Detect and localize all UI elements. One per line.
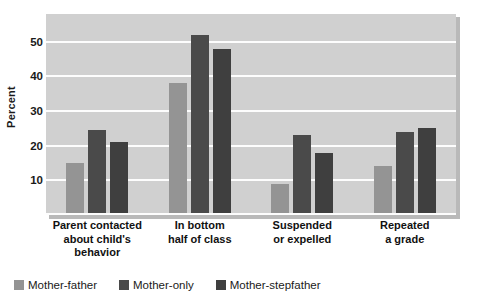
legend-label: Mother-only xyxy=(133,279,194,291)
bar xyxy=(315,153,333,215)
gridline xyxy=(46,41,456,43)
x-axis-baseline xyxy=(46,213,456,215)
legend-label: Mother-stepfather xyxy=(230,279,321,291)
bar xyxy=(293,135,311,215)
x-axis-label-line: Repeated xyxy=(354,219,457,233)
bar xyxy=(110,142,128,215)
x-axis-label-line: or expelled xyxy=(251,233,354,247)
legend-swatch-icon xyxy=(119,280,129,290)
x-axis-category-labels: Parent contactedabout child'sbehaviorIn … xyxy=(46,219,456,271)
x-axis-label-line: about child's xyxy=(46,233,149,247)
x-axis-category-label: Suspendedor expelled xyxy=(251,219,354,246)
bar xyxy=(418,128,436,215)
y-axis-tick-label: 30 xyxy=(30,105,43,117)
bar xyxy=(271,184,289,215)
bar xyxy=(88,130,106,215)
legend-swatch-icon xyxy=(14,280,24,290)
legend-swatch-icon xyxy=(216,280,226,290)
legend-item: Mother-only xyxy=(119,279,194,291)
gridline xyxy=(46,75,456,77)
x-axis-label-line: In bottom xyxy=(149,219,252,233)
y-axis-tick-label: 40 xyxy=(30,70,43,82)
x-axis-label-line: Parent contacted xyxy=(46,219,149,233)
bar xyxy=(66,163,84,215)
gridline xyxy=(46,110,456,112)
bar xyxy=(213,49,231,215)
bar-chart-figure: Percent 1020304050 Parent contactedabout… xyxy=(0,0,477,306)
legend-item: Mother-stepfather xyxy=(216,279,321,291)
bar xyxy=(396,132,414,215)
x-axis-label-line: Suspended xyxy=(251,219,354,233)
x-axis-label-line: behavior xyxy=(46,246,149,260)
gridline xyxy=(46,145,456,147)
gridline xyxy=(46,179,456,181)
bar xyxy=(169,83,187,215)
y-axis-tick-label: 10 xyxy=(30,174,43,186)
legend-item: Mother-father xyxy=(14,279,97,291)
chart-legend: Mother-fatherMother-onlyMother-stepfathe… xyxy=(14,279,343,291)
y-axis-tick-label: 50 xyxy=(30,36,43,48)
y-axis-tick-label: 20 xyxy=(30,140,43,152)
y-axis-tick-labels: 1020304050 xyxy=(0,0,48,306)
x-axis-category-label: Repeateda grade xyxy=(354,219,457,246)
bar xyxy=(191,35,209,215)
x-axis-category-label: In bottomhalf of class xyxy=(149,219,252,246)
legend-label: Mother-father xyxy=(28,279,97,291)
bar xyxy=(374,166,392,215)
x-axis-label-line: a grade xyxy=(354,233,457,247)
x-axis-label-line: half of class xyxy=(149,233,252,247)
x-axis-category-label: Parent contactedabout child'sbehavior xyxy=(46,219,149,260)
plot-area xyxy=(46,14,456,215)
